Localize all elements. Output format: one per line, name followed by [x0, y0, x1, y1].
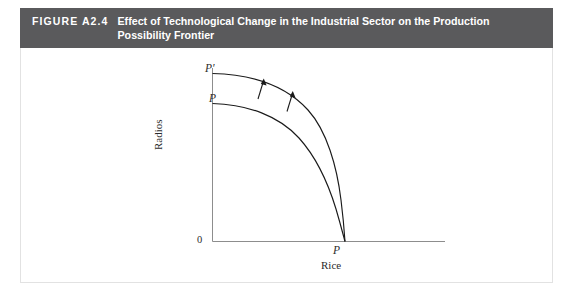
origin-label: 0: [197, 234, 202, 245]
ppf-curve-shifted: [213, 74, 346, 242]
ppf-chart-svg: [20, 48, 553, 283]
ppf-chart: P' P 0 P Rice Radios: [20, 48, 553, 283]
y-intercept-shifted-label: P': [205, 62, 214, 74]
x-intercept-label: P: [333, 244, 340, 256]
y-axis-title: Radios: [152, 119, 164, 150]
figure-number-label: FIGURE A2.4: [20, 15, 108, 28]
figure-title-line-1: Effect of Technological Change in the In…: [117, 15, 489, 29]
figure-title: Effect of Technological Change in the In…: [108, 15, 499, 42]
y-intercept-original-label: P: [209, 92, 216, 104]
ppf-curve-original: [213, 104, 346, 242]
figure-title-line-2: Possibility Frontier: [117, 29, 489, 43]
x-axis-title: Rice: [321, 259, 341, 271]
figure-header-bar: FIGURE A2.4 Effect of Technological Chan…: [20, 8, 553, 48]
